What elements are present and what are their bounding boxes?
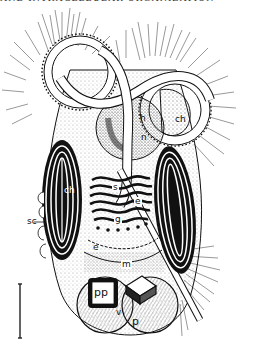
label-p: p [132,316,139,327]
label-g: g [114,215,122,224]
label-v: v [116,308,121,317]
chloroplast-left [42,140,82,260]
label-ch-left: ch [64,186,75,195]
cut-off-header-text: AND INTRACELLULAR ORGANIZATION [0,0,259,4]
label-ch-top-right: ch [175,115,186,124]
label-e-upper: e [134,197,142,206]
label-s: s [112,183,119,192]
label-m: m [121,260,132,269]
label-h: h [140,114,146,123]
scale-bar [18,284,22,338]
label-n: n [141,133,147,142]
label-e-lower: e [93,243,99,252]
label-sc: sc [27,217,37,226]
cell-diagram-figure: AND INTRACELLULAR ORGANIZATION [0,0,259,347]
cell-illustration [0,0,259,347]
label-pp: pp [94,287,108,298]
chloroplast-right-top [160,89,190,135]
